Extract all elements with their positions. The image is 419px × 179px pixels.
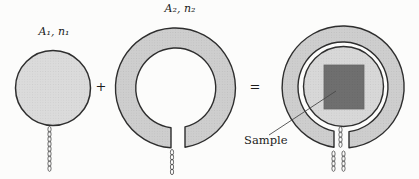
combined-group <box>269 26 404 171</box>
combined-slot-wire <box>339 127 342 147</box>
combined-wire-right <box>342 151 345 171</box>
coil1-loop <box>16 51 91 126</box>
plus-sign: + <box>93 80 109 95</box>
sample-label: Sample <box>244 134 287 147</box>
coil2-ring <box>115 28 235 148</box>
coil1-group <box>16 51 91 172</box>
sample-square <box>324 65 364 109</box>
coil1-label: A₁, n₁ <box>14 26 94 39</box>
coil1-wire <box>48 126 51 171</box>
coil2-wire <box>170 149 173 174</box>
coil2-group <box>115 28 235 175</box>
coil2-label: A₂, n₂ <box>140 3 220 16</box>
equals-sign: = <box>247 80 263 95</box>
combined-wire-left <box>332 151 335 171</box>
figure-canvas: A₁, n₁ A₂, n₂ + = Sample <box>0 0 419 179</box>
